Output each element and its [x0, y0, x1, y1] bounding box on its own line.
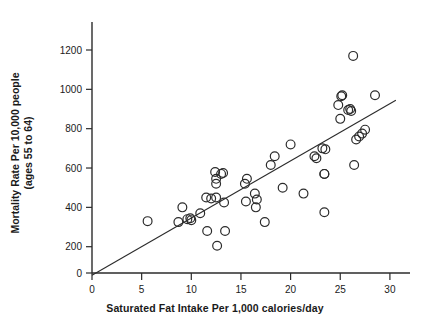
- data-point: [336, 114, 345, 123]
- x-tick-label: 10: [186, 284, 198, 295]
- data-point: [250, 189, 259, 198]
- y-axis-ticks: 020040060080010001200: [60, 45, 92, 279]
- data-point: [242, 197, 251, 206]
- axes: [92, 22, 410, 273]
- x-tick-label: 20: [285, 284, 297, 295]
- x-tick-label: 15: [235, 284, 247, 295]
- y-tick-label: 600: [65, 163, 82, 174]
- data-point: [243, 174, 252, 183]
- data-point: [203, 227, 212, 236]
- data-point: [143, 217, 152, 226]
- x-axis-label: Saturated Fat Intake Per 1,000 calories/…: [0, 302, 430, 314]
- data-points: [143, 52, 379, 251]
- x-tick-label: 25: [335, 284, 347, 295]
- data-point: [334, 101, 343, 110]
- data-point: [266, 161, 275, 170]
- x-tick-label: 5: [139, 284, 145, 295]
- data-point: [212, 193, 221, 202]
- data-point: [349, 52, 358, 61]
- data-point: [286, 140, 295, 149]
- data-point: [371, 91, 380, 100]
- data-point: [321, 145, 330, 154]
- data-point: [221, 227, 230, 236]
- y-tick-label: 400: [65, 202, 82, 213]
- data-point: [320, 170, 329, 179]
- plot-canvas: 020040060080010001200 051015202530: [0, 0, 430, 332]
- data-point: [299, 189, 308, 198]
- y-tick-label: 1200: [60, 45, 83, 56]
- y-tick-label: 800: [65, 123, 82, 134]
- data-point: [312, 154, 321, 163]
- y-tick-label: 200: [65, 241, 82, 252]
- data-point: [350, 161, 359, 170]
- scatter-plot-figure: Mortality Rate Per 10,000 people (ages 5…: [0, 0, 430, 332]
- data-point: [278, 183, 287, 192]
- data-point: [270, 152, 279, 161]
- data-point: [213, 241, 222, 250]
- data-point: [320, 208, 329, 217]
- x-tick-label: 0: [89, 284, 95, 295]
- data-point: [178, 203, 187, 212]
- y-tick-label: 0: [76, 268, 82, 279]
- x-tick-label: 30: [384, 284, 396, 295]
- y-tick-label: 1000: [60, 84, 83, 95]
- data-point: [310, 152, 319, 161]
- data-point: [260, 218, 269, 227]
- x-axis-ticks: 051015202530: [89, 273, 396, 295]
